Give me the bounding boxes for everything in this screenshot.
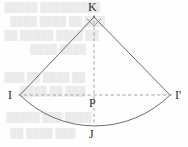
sector-diagram-svg — [0, 0, 188, 147]
vertex-point-k — [93, 16, 95, 18]
radius-line-ki-prime — [94, 17, 170, 95]
radius-line-ki — [20, 17, 94, 95]
label-right-vertex-i-prime: I' — [175, 89, 181, 101]
label-arc-midpoint-j: J — [89, 128, 94, 140]
label-apex-k: K — [88, 1, 97, 13]
label-left-vertex-i: I — [8, 89, 12, 101]
label-center-p: P — [89, 97, 96, 109]
geometry-figure: █████████ █████ ███ ██ ████ ████ ██ ████… — [0, 0, 188, 147]
